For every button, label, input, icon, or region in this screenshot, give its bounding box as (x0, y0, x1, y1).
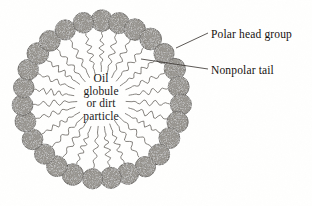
center-caption: Oil globule or dirt particle (62, 72, 140, 122)
center-caption-line-4: particle (62, 110, 140, 123)
polar-head-group (73, 12, 94, 33)
polar-head-group (82, 169, 102, 189)
label-polar-head-group: Polar head group (211, 28, 292, 40)
polar-head-group (100, 167, 121, 188)
center-caption-line-3: or dirt (62, 97, 140, 110)
label-nonpolar-tail: Nonpolar tail (211, 64, 274, 76)
polar-head-group (55, 20, 75, 40)
center-caption-line-1: Oil (62, 72, 140, 85)
polar-head-group (14, 77, 35, 98)
center-caption-line-2: globule (62, 85, 140, 98)
figure-canvas: Oil globule or dirt particle Polar head … (0, 0, 312, 206)
